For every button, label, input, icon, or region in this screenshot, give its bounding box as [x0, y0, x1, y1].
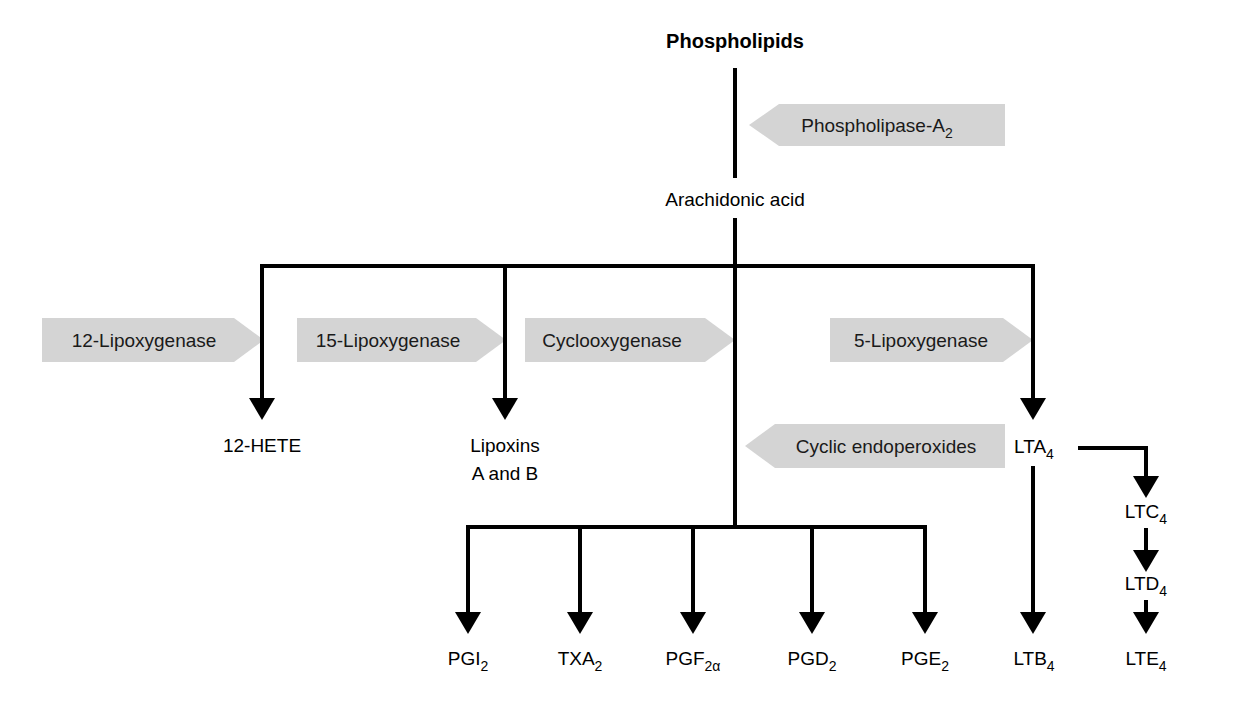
arrowhead-ltd4: [1133, 550, 1159, 572]
node-ltc4: LTC4: [1125, 501, 1167, 527]
enzyme-label-cyclooxygenase: Cyclooxygenase: [542, 330, 681, 351]
pathway-diagram: Phospholipase-A2 12-Lipoxygenase 15-Lipo…: [0, 0, 1234, 704]
edge-lta4-to-ltc4: [1078, 448, 1146, 478]
arrowhead-txa2: [567, 612, 593, 634]
enzyme-label-12-lipoxygenase: 12-Lipoxygenase: [72, 330, 217, 351]
arrowhead-lta4: [1020, 398, 1046, 420]
enzyme-label-15-lipoxygenase: 15-Lipoxygenase: [316, 330, 461, 351]
node-12-hete: 12-HETE: [223, 435, 301, 456]
node-pgf2a: PGF2α: [666, 648, 721, 674]
arrowhead-pgi2: [455, 612, 481, 634]
arrowhead-ltb4: [1020, 612, 1046, 634]
arrowhead-ltc4: [1133, 476, 1159, 498]
enzyme-label-cyclic-endoperoxides: Cyclic endoperoxides: [796, 436, 977, 457]
arrowhead-pge2: [912, 612, 938, 634]
arrowhead-pgd2: [799, 612, 825, 634]
pathway-canvas: Phospholipase-A2 12-Lipoxygenase 15-Lipo…: [0, 0, 1234, 704]
enzyme-label-5-lipoxygenase: 5-Lipoxygenase: [854, 330, 988, 351]
node-phospholipids: Phospholipids: [666, 30, 804, 52]
arrowhead-lte4: [1133, 612, 1159, 634]
arrowhead-12-hete: [249, 398, 275, 420]
node-txa2: TXA2: [558, 648, 603, 674]
node-pgi2: PGI2: [448, 648, 489, 674]
arrowhead-pgf2a: [680, 612, 706, 634]
node-ltb4: LTB4: [1013, 648, 1054, 674]
node-arachidonic-acid: Arachidonic acid: [665, 189, 804, 210]
node-lipoxins-line2: A and B: [472, 463, 539, 484]
node-lipoxins-line1: Lipoxins: [470, 435, 540, 456]
arrowhead-lipoxins: [492, 398, 518, 420]
node-pge2: PGE2: [901, 648, 949, 674]
node-ltd4: LTD4: [1125, 573, 1167, 599]
node-pgd2: PGD2: [788, 648, 837, 674]
node-lte4: LTE4: [1125, 648, 1166, 674]
node-lta4: LTA4: [1014, 436, 1054, 462]
